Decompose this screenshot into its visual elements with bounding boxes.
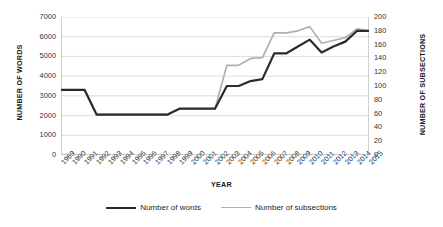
series-lines	[61, 27, 369, 115]
y-axis-right-tick-label: 80	[374, 96, 404, 104]
plot-area	[61, 17, 369, 155]
y-axis-left-tick-label: 3000	[26, 92, 56, 100]
y-axis-right-tick-label: 120	[374, 68, 404, 76]
chart-legend: Number of wordsNumber of subsections	[0, 203, 443, 212]
y-axis-right-tick-label: 160	[374, 41, 404, 49]
legend-label: Number of subsections	[255, 203, 337, 212]
y-axis-left-tick-label: 7000	[26, 13, 56, 21]
y-axis-left-title: NUMBER OF WORDS	[15, 23, 24, 143]
y-axis-right-tick-label: 100	[374, 82, 404, 90]
y-axis-left-tick-label: 1000	[26, 131, 56, 139]
y-axis-right-tick-label: 40	[374, 123, 404, 131]
legend-swatch-icon	[221, 207, 251, 208]
dual-axis-line-chart: NUMBER OF WORDS NUMBER OF SUBSECTIONS YE…	[0, 0, 443, 227]
y-axis-right-tick-label: 200	[374, 13, 404, 21]
gridlines	[61, 17, 369, 155]
legend-item: Number of words	[106, 203, 201, 212]
axis-lines	[61, 17, 369, 155]
y-axis-right-tick-label: 180	[374, 27, 404, 35]
legend-label: Number of words	[140, 203, 201, 212]
y-axis-right-tick-label: 20	[374, 137, 404, 145]
plot-svg	[61, 17, 369, 155]
y-axis-right-tick-label: 140	[374, 54, 404, 62]
y-axis-left-tick-label: 6000	[26, 33, 56, 41]
y-axis-left-tick-label: 0	[26, 151, 56, 159]
y-axis-left-tick-label: 5000	[26, 52, 56, 60]
y-axis-left-tick-label: 2000	[26, 112, 56, 120]
series-line	[61, 27, 369, 115]
legend-item: Number of subsections	[221, 203, 337, 212]
y-axis-right-tick-label: 60	[374, 110, 404, 118]
legend-swatch-icon	[106, 207, 136, 209]
y-axis-right-title: NUMBER OF SUBSECTIONS	[418, 25, 427, 145]
y-axis-left-tick-label: 4000	[26, 72, 56, 80]
x-axis-title: YEAR	[0, 180, 443, 189]
